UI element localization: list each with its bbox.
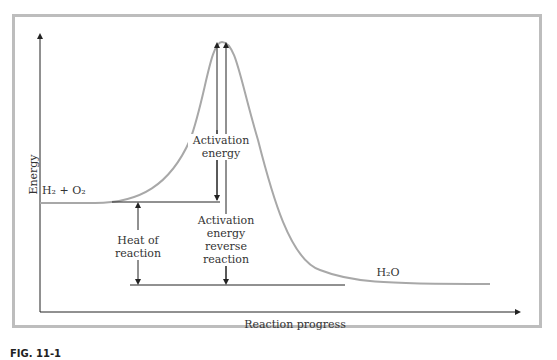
figure-caption: FIG. 11-1 xyxy=(10,348,61,359)
heat-of-reaction-label: Heat of reaction xyxy=(108,234,168,260)
reverse-activation-label: Activation energy reverse reaction xyxy=(193,214,259,266)
energy-diagram xyxy=(0,0,557,360)
y-axis-label: Energy xyxy=(27,150,40,200)
product-label: H₂O xyxy=(368,266,408,279)
x-axis-label: Reaction progress xyxy=(225,318,365,331)
reactants-label: H₂ + O₂ xyxy=(42,184,102,197)
activation-energy-label: Activation energy xyxy=(188,134,254,160)
